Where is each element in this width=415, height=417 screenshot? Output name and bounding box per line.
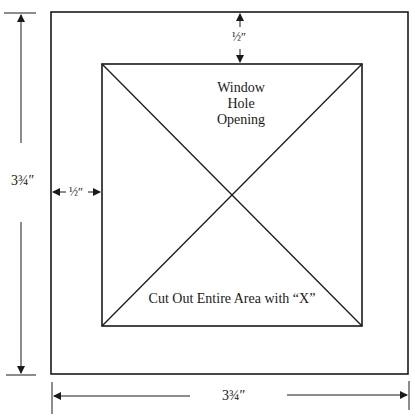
width-dimension-label: 3¾″ [222,388,245,403]
cut-out-instruction: Cut Out Entire Area with “X” [130,291,334,306]
height-dimension-label: 3¾″ [11,173,34,188]
template-drawing [0,0,415,417]
top-margin-label: ½″ [232,30,246,45]
window-label-line3: Opening [198,112,284,128]
window-hole-label: Window Hole Opening [198,80,284,128]
window-label-line2: Hole [198,96,284,112]
left-margin-label: ½″ [69,185,83,200]
window-label-line1: Window [198,80,284,96]
